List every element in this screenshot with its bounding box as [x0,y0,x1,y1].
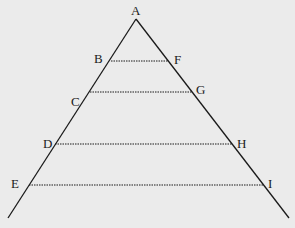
triangle-diagram: A B F C G D H E I [0,0,295,228]
label-g: G [196,83,205,96]
label-i: I [268,177,272,190]
label-f: F [174,53,181,66]
left-side-line [8,19,136,218]
label-e: E [11,177,19,190]
label-c: C [71,95,80,108]
label-h: H [237,137,246,150]
label-a: A [131,4,140,17]
label-d: D [43,137,52,150]
right-side-line [136,19,289,218]
diagram-lines [0,0,295,228]
label-b: B [94,52,103,65]
